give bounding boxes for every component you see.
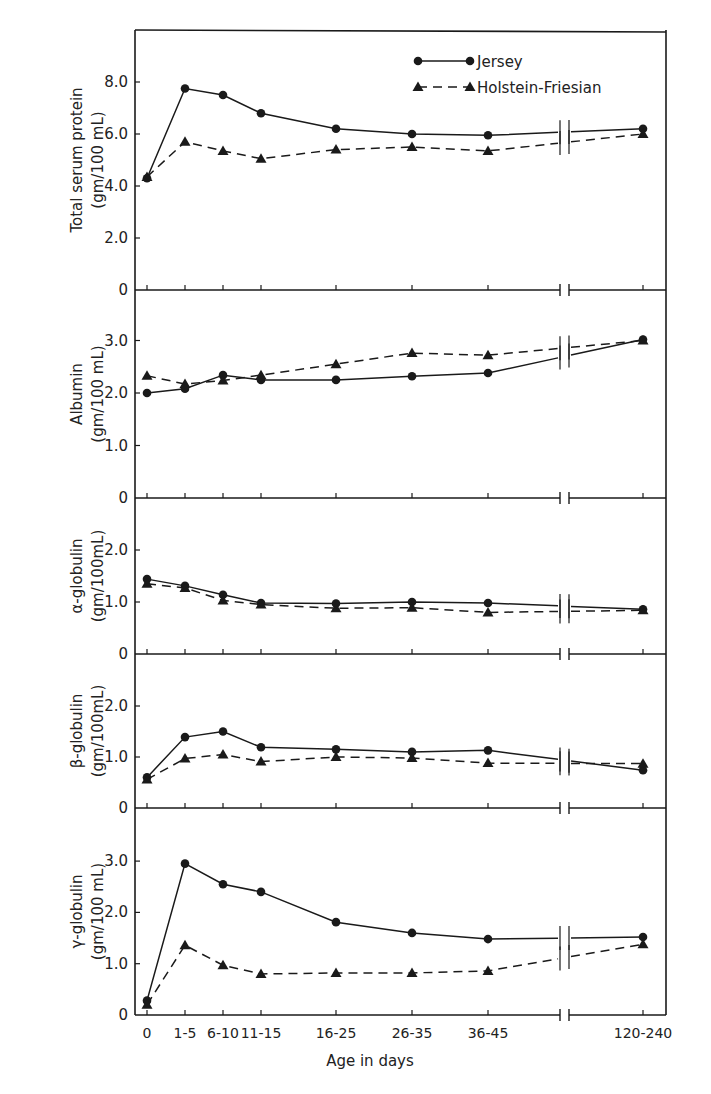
triangle-marker	[180, 136, 191, 146]
circle-marker	[219, 91, 228, 100]
series-holstein-friesian	[142, 749, 649, 783]
x-axis: 01-56-1011-1516-2526-3536-45120-240Age i…	[143, 1025, 673, 1070]
circle-marker	[257, 743, 266, 752]
circle-marker	[408, 372, 417, 381]
chart-panels: 02.04.06.08.0Total serum protein(gm/100 …	[68, 73, 666, 1024]
triangle-marker	[407, 753, 418, 763]
legend-label-jersey: Jersey	[476, 53, 523, 71]
x-axis-title: Age in days	[326, 1052, 414, 1070]
y-tick-label: 2.0	[104, 697, 128, 715]
triangle-marker	[142, 370, 153, 380]
y-axis-unit: (gm/100 mL)	[89, 863, 107, 960]
circle-marker	[181, 733, 190, 742]
panel-1: 02.04.06.08.0Total serum protein(gm/100 …	[68, 73, 666, 299]
y-axis-unit: (gm/100mL)	[89, 685, 107, 778]
y-tick-label: 1.0	[104, 593, 128, 611]
y-tick-label: 0	[118, 799, 128, 817]
x-tick-label: 36-45	[468, 1025, 509, 1041]
y-axis-unit: (gm/100 mL)	[89, 345, 107, 442]
circle-marker	[143, 389, 152, 398]
y-axis-unit: (gm/100 mL)	[89, 111, 107, 208]
triangle-marker	[218, 145, 229, 155]
series-holstein-friesian	[142, 335, 649, 388]
y-axis-title: Albumin	[68, 363, 86, 425]
panel-5: 01.02.03.0γ-globulin(gm/100 mL)	[68, 852, 666, 1024]
y-tick-label: 2.0	[104, 229, 128, 247]
legend-circle-icon	[414, 57, 423, 66]
series-jersey	[143, 84, 648, 182]
y-tick-label: 2.0	[104, 541, 128, 559]
legend-circle-icon	[466, 57, 475, 66]
triangle-marker	[180, 940, 191, 950]
y-tick-label: 3.0	[104, 332, 128, 350]
x-tick-label: 6-10	[207, 1025, 239, 1041]
y-tick-label: 2.0	[104, 903, 128, 921]
series-jersey	[143, 335, 648, 397]
circle-marker	[219, 727, 228, 736]
y-tick-label: 8.0	[104, 73, 128, 91]
y-axis-title: Total serum protein	[68, 87, 86, 233]
legend-label-holstein-friesian: Holstein-Friesian	[477, 79, 601, 97]
y-tick-label: 2.0	[104, 384, 128, 402]
x-tick-label: 11-15	[241, 1025, 282, 1041]
series-holstein-friesian	[142, 939, 649, 1009]
x-tick-label: 1-5	[174, 1025, 197, 1041]
triangle-marker	[218, 960, 229, 970]
triangle-marker	[331, 144, 342, 154]
y-tick-label: 3.0	[104, 852, 128, 870]
y-tick-label: 0	[118, 489, 128, 507]
circle-marker	[181, 859, 190, 868]
circle-marker	[257, 109, 266, 118]
y-axis-title: β-globulin	[68, 694, 86, 769]
chart-frame	[135, 30, 666, 1015]
circle-marker	[484, 746, 493, 755]
x-tick-label: 16-25	[316, 1025, 357, 1041]
circle-marker	[408, 130, 417, 139]
panel-4: 01.02.0β-globulin(gm/100mL)	[68, 685, 666, 817]
circle-marker	[332, 376, 341, 385]
series-holstein-friesian	[142, 129, 649, 181]
y-tick-label: 0	[118, 281, 128, 299]
y-tick-label: 4.0	[104, 177, 128, 195]
legend: JerseyHolstein-Friesian	[413, 53, 602, 97]
triangle-marker	[638, 939, 649, 949]
panel-3: 01.02.0α-globulin(gm/100mL)	[68, 530, 666, 663]
circle-marker	[181, 84, 190, 93]
circle-marker	[332, 125, 341, 134]
x-tick-label: 0	[143, 1025, 152, 1041]
series-jersey	[143, 859, 648, 1005]
y-axis-title: α-globulin	[68, 538, 86, 613]
serum-protein-chart: 02.04.06.08.0Total serum protein(gm/100 …	[0, 0, 711, 1094]
y-tick-label: 6.0	[104, 125, 128, 143]
y-tick-label: 1.0	[104, 955, 128, 973]
y-tick-label: 1.0	[104, 748, 128, 766]
x-tick-label: 120-240	[614, 1025, 673, 1041]
triangle-marker	[331, 967, 342, 977]
circle-marker	[257, 888, 266, 897]
triangle-marker	[407, 142, 418, 152]
y-axis-title: γ-globulin	[68, 874, 86, 948]
x-tick-label: 26-35	[392, 1025, 433, 1041]
triangle-marker	[407, 348, 418, 358]
triangle-marker	[256, 370, 267, 380]
triangle-marker	[331, 752, 342, 762]
y-tick-label: 0	[118, 1006, 128, 1024]
y-tick-label: 1.0	[104, 437, 128, 455]
circle-marker	[219, 880, 228, 889]
y-tick-label: 0	[118, 645, 128, 663]
circle-marker	[332, 918, 341, 927]
series-holstein-friesian	[142, 578, 649, 623]
panel-2: 01.02.03.0Albumin(gm/100 mL)	[68, 332, 666, 508]
circle-marker	[484, 369, 493, 378]
triangle-marker	[483, 758, 494, 768]
circle-marker	[484, 599, 493, 608]
triangle-marker	[218, 749, 229, 759]
y-axis-unit: (gm/100mL)	[89, 530, 107, 623]
circle-marker	[484, 935, 493, 944]
circle-marker	[408, 929, 417, 938]
circle-marker	[484, 131, 493, 140]
